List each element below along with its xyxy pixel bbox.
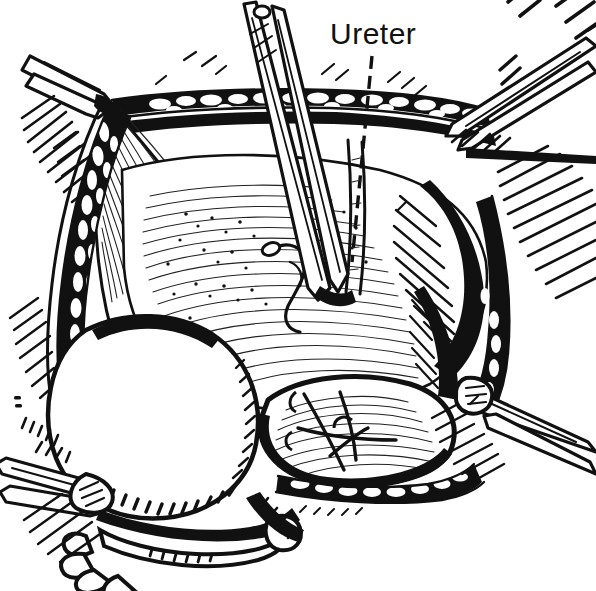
sutured-stump: [260, 377, 454, 488]
label-ureter: Ureter: [330, 17, 416, 50]
illustration-canvas: Ureter: [0, 0, 596, 591]
surgical-illustration-figure: Ureter: [0, 0, 596, 591]
